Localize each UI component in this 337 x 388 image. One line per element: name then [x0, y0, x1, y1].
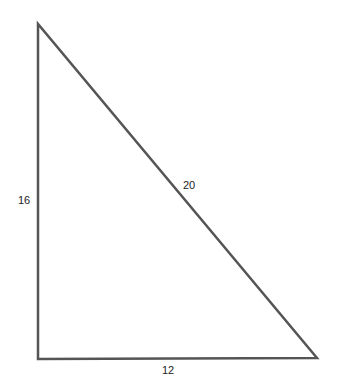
right-triangle — [38, 24, 317, 359]
left-side-label: 16 — [18, 194, 30, 206]
hypotenuse-label: 20 — [183, 179, 195, 191]
triangle-diagram — [0, 0, 337, 388]
base-label: 12 — [162, 364, 174, 376]
